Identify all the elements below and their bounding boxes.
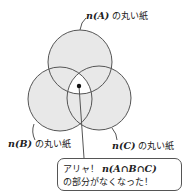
- label-a: n(A) の丸い紙: [86, 10, 148, 22]
- label-c-text: の丸い紙: [135, 141, 174, 151]
- callout-exclaim: アリャ！: [63, 164, 102, 174]
- callout-line-1: アリャ！ n(A∩B∩C): [63, 162, 176, 176]
- callout-box: アリャ！ n(A∩B∩C) の部分がなくなった！: [57, 158, 182, 191]
- label-b-text: の丸い紙: [32, 139, 71, 149]
- callout-math: n(A∩B∩C): [102, 163, 157, 174]
- pointer-dot: [77, 84, 81, 88]
- leader-c: [112, 128, 117, 140]
- label-c: n(C) の丸い紙: [112, 140, 174, 152]
- label-c-math: n(C): [112, 140, 135, 151]
- label-a-math: n(A): [86, 10, 109, 21]
- callout-line-2: の部分がなくなった！: [63, 176, 176, 189]
- label-b-math: n(B): [8, 138, 32, 149]
- label-a-text: の丸い紙: [109, 11, 148, 21]
- label-b: n(B) の丸い紙: [8, 138, 71, 150]
